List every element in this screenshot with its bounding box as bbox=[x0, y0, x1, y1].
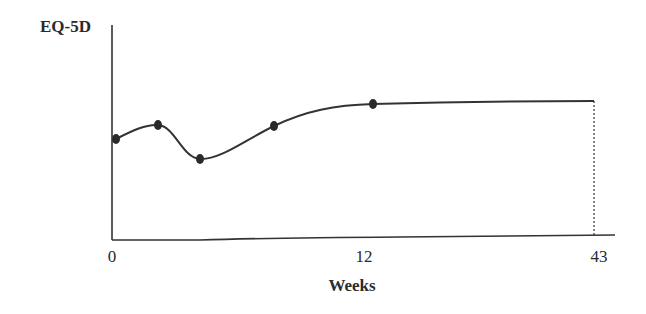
x-axis-label: Weeks bbox=[328, 276, 376, 295]
data-point-week-12 bbox=[369, 99, 377, 109]
x-tick-label-0: 0 bbox=[108, 247, 117, 266]
eq5d-series-line bbox=[116, 101, 594, 159]
data-point-week-8 bbox=[270, 121, 278, 131]
x-tick-label-12: 12 bbox=[356, 247, 373, 266]
data-point-week-2 bbox=[154, 120, 162, 130]
x-tick-label-43: 43 bbox=[591, 247, 608, 266]
chart: EQ-5D 0 12 43 Weeks bbox=[0, 0, 646, 314]
x-axis bbox=[112, 235, 615, 240]
series-markers bbox=[112, 99, 377, 164]
data-point-week-0 bbox=[112, 134, 120, 144]
data-point-week-4 bbox=[196, 154, 204, 164]
y-axis-label: EQ-5D bbox=[40, 17, 91, 36]
